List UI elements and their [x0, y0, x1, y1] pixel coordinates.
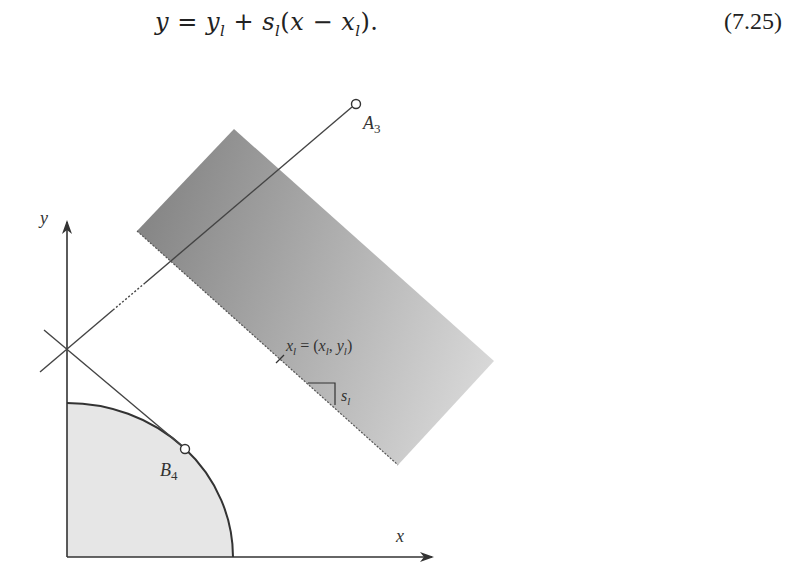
- point-b4: [181, 445, 190, 454]
- region-b: [67, 403, 233, 557]
- line-a3-dotted: [113, 283, 145, 310]
- y-axis-label: y: [38, 208, 48, 228]
- halfplane-region: [137, 129, 494, 465]
- line-a3: [40, 310, 113, 372]
- point-a3: [352, 100, 361, 109]
- point-a3-label: A3: [362, 113, 381, 136]
- x-axis-label: x: [395, 526, 404, 546]
- diagram: y x A3 B4 xl = (xl, yl) sl: [0, 0, 794, 573]
